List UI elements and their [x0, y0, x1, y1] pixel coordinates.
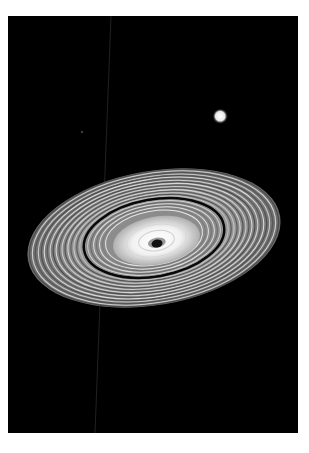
- rings: [16, 150, 291, 326]
- bright-body: [213, 109, 229, 125]
- faint-speck: [81, 131, 83, 133]
- ring-system-illustration: [8, 16, 298, 433]
- space-image: [8, 16, 298, 433]
